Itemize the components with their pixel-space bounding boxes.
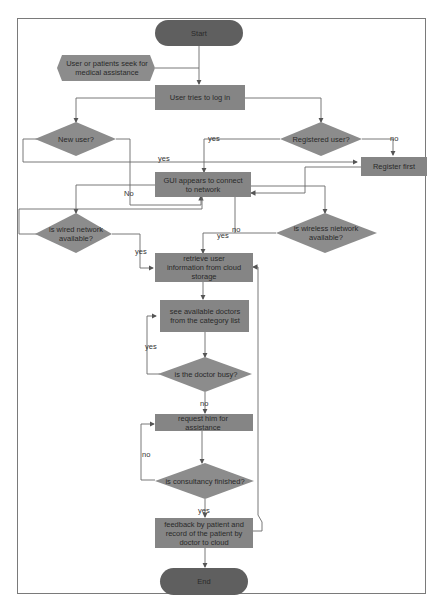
end-label: End [160,568,248,595]
retrieve-label: retrieve user information from cloud sto… [165,253,243,282]
edge-label-registered-yes: yes [208,135,220,143]
edge-label-gui-no: no [232,226,240,234]
wired-label: is wired network available? [46,222,106,246]
wireless-label: is wireless nietwork available? [290,221,362,245]
registered-user-label: Registered user? [285,130,357,148]
edge-label-busy-yes: yes [145,343,157,351]
doctor-busy-label: is the doctor busy? [165,366,247,382]
input-label: User or patients seek for medical assist… [64,55,150,81]
edge-label-new-user-no: No [124,190,134,198]
request-label: request him for assistance [170,414,236,431]
edge-label-wireless-yes: yes [217,232,229,240]
gui-connect-label: GUI appears to connect to network [160,172,246,197]
edge-label-registered-no: no [390,135,398,143]
new-user-label: New user? [45,130,107,148]
register-first-label: Register first [361,157,427,176]
see-doctors-label: see available doctors from the category … [167,300,243,332]
feedback-label: feedback by patient and record of the pa… [160,518,248,548]
edge-label-finished-yes: yes [198,507,210,515]
edge-label-new-user-yes: yes [158,155,170,163]
start-label: Start [155,20,243,46]
edge-label-busy-no: no [200,400,208,408]
login-label: User tries to log in [155,85,245,110]
edge-label-finished-no: no [142,451,150,459]
edge-label-wired-yes: yes [135,248,147,256]
consult-finished-label: is consultancy finished? [160,473,250,489]
